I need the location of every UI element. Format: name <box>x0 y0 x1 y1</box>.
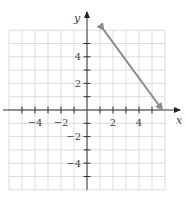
y-tick-label: −2 <box>66 131 81 142</box>
y-axis-label: y <box>73 12 81 25</box>
coordinate-plane: −4−22442−2−4 x y <box>0 0 186 198</box>
x-tick-label: −2 <box>54 117 69 128</box>
x-tick-label: 4 <box>136 117 142 128</box>
y-tick-label: 4 <box>75 51 81 62</box>
y-tick-label: −4 <box>66 158 81 169</box>
x-tick-label: 2 <box>110 117 116 128</box>
x-axis-label: x <box>176 114 183 127</box>
x-tick-label: −4 <box>28 117 43 128</box>
y-tick-label: 2 <box>75 78 81 89</box>
